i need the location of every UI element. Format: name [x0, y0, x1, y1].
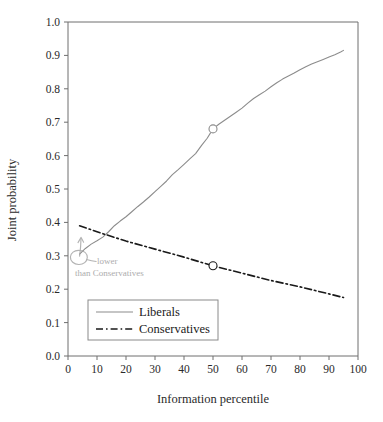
- y-tick-label: 0.7: [46, 116, 61, 128]
- annotation-text-line2: than Conservatives: [75, 268, 144, 278]
- x-tick-label: 20: [120, 363, 132, 375]
- annotation-text-line1: lower: [97, 256, 118, 266]
- x-tick-label: 60: [236, 363, 248, 375]
- joint-probability-line-chart: 0.00.10.20.30.40.50.60.70.80.91.0 010203…: [0, 0, 383, 422]
- x-tick-label: 50: [207, 363, 219, 375]
- x-tick-label: 90: [323, 363, 335, 375]
- data-marker-conservatives: [209, 262, 217, 270]
- y-tick-label: 0.1: [46, 317, 61, 329]
- x-tick-label: 40: [178, 363, 190, 375]
- legend-label-liberals: Liberals: [139, 305, 180, 319]
- x-axis-title: Information percentile: [157, 392, 270, 406]
- y-tick-label: 0.6: [46, 150, 61, 162]
- y-tick-label: 0.8: [46, 83, 61, 95]
- y-tick-label: 0.0: [46, 350, 61, 362]
- x-tick-label: 80: [294, 363, 306, 375]
- x-tick-label: 70: [265, 363, 277, 375]
- y-tick-label: 0.3: [46, 250, 61, 262]
- x-tick-label: 10: [91, 363, 103, 375]
- data-marker-liberals: [209, 125, 217, 133]
- y-tick-label: 0.9: [46, 49, 61, 61]
- y-axis-title: Joint probability: [5, 158, 19, 241]
- y-tick-label: 0.2: [46, 283, 61, 295]
- x-tick-label: 100: [349, 363, 367, 375]
- x-tick-label: 0: [65, 363, 71, 375]
- y-tick-label: 1.0: [46, 16, 61, 28]
- legend: Liberals Conservatives: [88, 300, 218, 340]
- y-tick-label: 0.5: [46, 183, 61, 195]
- y-tick-label: 0.4: [46, 216, 61, 228]
- legend-label-conservatives: Conservatives: [139, 322, 210, 336]
- chart-figure: 0.00.10.20.30.40.50.60.70.80.91.0 010203…: [0, 0, 383, 422]
- x-tick-label: 30: [149, 363, 161, 375]
